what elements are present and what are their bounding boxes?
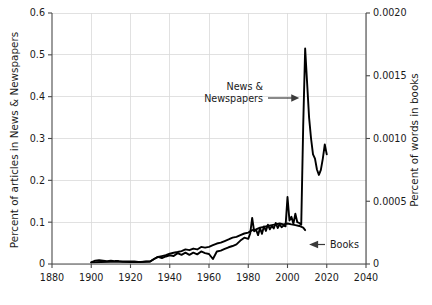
x-tick-label: 2000 xyxy=(275,272,299,283)
left-tick-label: 0.3 xyxy=(30,133,45,144)
right-tick-label: 0.0005 xyxy=(373,196,407,207)
left-tick-label: 0 xyxy=(39,258,45,269)
right-tick-label: 0.0010 xyxy=(373,133,407,144)
chart-figure: 00.10.20.30.40.50.600.00050.00100.00150.… xyxy=(0,0,432,305)
x-tick-label: 2040 xyxy=(354,272,378,283)
x-tick-label: 1920 xyxy=(118,272,142,283)
left-tick-label: 0.5 xyxy=(30,49,45,60)
right-axis-title: Percent of words in books xyxy=(408,73,420,207)
x-tick-label: 1960 xyxy=(197,272,221,283)
right-tick-label: 0.0015 xyxy=(373,70,407,81)
annotation-books-label: Books xyxy=(330,239,359,250)
dual-axis-line-chart: 00.10.20.30.40.50.600.00050.00100.00150.… xyxy=(0,0,432,305)
right-tick-label: 0 xyxy=(373,258,379,269)
x-tick-label: 1980 xyxy=(236,272,260,283)
annotation-news-line1: News & xyxy=(227,81,264,92)
x-tick-label: 1940 xyxy=(158,272,182,283)
left-tick-label: 0.2 xyxy=(30,175,45,186)
x-tick-label: 1900 xyxy=(79,272,103,283)
x-tick-label: 1880 xyxy=(40,272,64,283)
left-tick-label: 0.1 xyxy=(30,217,45,228)
grid-lines xyxy=(52,13,366,264)
annotation-books-arrowhead xyxy=(309,241,318,249)
left-axis-title: Percent of articles in News & Newspapers xyxy=(8,32,20,248)
left-tick-label: 0.4 xyxy=(30,91,45,102)
x-tick-label: 2020 xyxy=(315,272,339,283)
series-line-books xyxy=(91,223,305,262)
right-tick-label: 0.0020 xyxy=(373,7,407,18)
annotation-news-line2: Newspapers xyxy=(204,93,263,104)
left-tick-label: 0.6 xyxy=(30,7,45,18)
annotation-news-arrowhead xyxy=(291,94,299,102)
